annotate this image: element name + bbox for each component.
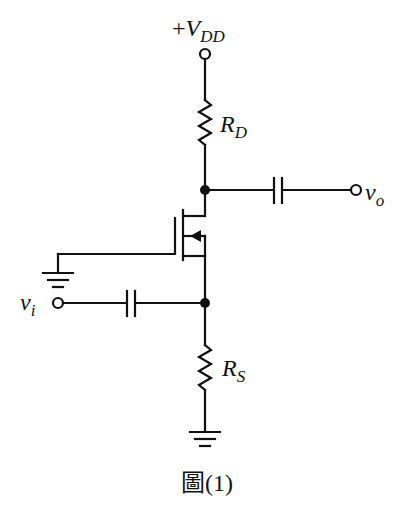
vi-label: vi [20, 289, 36, 320]
output-terminal-icon [351, 185, 361, 195]
mosfet-arrow-icon [190, 230, 201, 242]
vo-label: vo [365, 179, 384, 210]
vdd-label: +VDD [172, 15, 225, 46]
drain-resistor-icon [199, 100, 211, 145]
figure-caption: 圖(1) [181, 470, 233, 496]
rs-label: RS [221, 355, 246, 386]
vdd-terminal-icon [200, 49, 210, 59]
source-resistor-icon [199, 345, 211, 390]
circuit-diagram: +VDD RD vo vi RS 圖(1) [0, 0, 414, 520]
rd-label: RD [219, 111, 248, 142]
input-terminal-icon [53, 298, 63, 308]
